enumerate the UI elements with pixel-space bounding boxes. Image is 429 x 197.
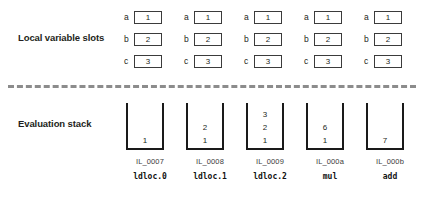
slot-name-label: a [244, 13, 254, 22]
local-variable-slot: c3 [364, 53, 402, 69]
slot-value-box: 1 [254, 11, 282, 24]
evaluation-stack-container: 1 [126, 103, 164, 150]
instruction-column: a1b2c361IL_000amul [300, 0, 360, 197]
instruction-column: a1b2c37IL_000badd [360, 0, 420, 197]
local-variable-slot: a1 [244, 9, 282, 25]
local-variable-slot: c3 [244, 53, 282, 69]
slot-value-box: 3 [374, 55, 402, 68]
instruction-opcode-label: ldloc.2 [240, 172, 300, 181]
local-variable-slot: c3 [124, 53, 162, 69]
local-variable-slot: b2 [364, 31, 402, 47]
slot-name-label: a [184, 13, 194, 22]
slot-name-label: c [244, 57, 254, 66]
local-variable-slot: b2 [124, 31, 162, 47]
evaluation-stack-container: 321 [246, 103, 284, 150]
instruction-opcode-label: mul [300, 172, 360, 181]
instruction-column: a1b2c31IL_0007ldloc.0 [120, 0, 180, 197]
instruction-offset-label: IL_0008 [180, 157, 240, 166]
local-variable-slot: c3 [184, 53, 222, 69]
slot-name-label: c [184, 57, 194, 66]
local-variable-slot-group: a1b2c3 [124, 9, 162, 75]
stack-item: 2 [263, 121, 267, 134]
slot-value-box: 3 [194, 55, 222, 68]
evaluation-stack-container: 21 [186, 103, 224, 150]
local-variable-slot: c3 [304, 53, 342, 69]
instruction-column: a1b2c321IL_0008ldloc.1 [180, 0, 240, 197]
instruction-opcode-label: ldloc.0 [120, 172, 180, 181]
instruction-opcode-label: ldloc.1 [180, 172, 240, 181]
slot-name-label: c [304, 57, 314, 66]
slot-name-label: a [124, 13, 134, 22]
slot-value-box: 1 [374, 11, 402, 24]
slot-name-label: b [364, 35, 374, 44]
local-variable-slots-label: Local variable slots [18, 32, 104, 43]
local-variable-slot: b2 [304, 31, 342, 47]
local-variable-slot-group: a1b2c3 [364, 9, 402, 75]
slot-name-label: c [364, 57, 374, 66]
slot-value-box: 2 [374, 33, 402, 46]
slot-value-box: 1 [194, 11, 222, 24]
instruction-column: a1b2c3321IL_0009ldloc.2 [240, 0, 300, 197]
instruction-offset-label: IL_0009 [240, 157, 300, 166]
slot-value-box: 2 [134, 33, 162, 46]
slot-name-label: b [184, 35, 194, 44]
slot-value-box: 1 [314, 11, 342, 24]
instruction-offset-label: IL_000a [300, 157, 360, 166]
instruction-offset-label: IL_000b [360, 157, 420, 166]
slot-value-box: 3 [134, 55, 162, 68]
evaluation-stack-container: 7 [366, 103, 404, 150]
instruction-opcode-label: add [360, 172, 420, 181]
slot-name-label: b [124, 35, 134, 44]
slot-value-box: 3 [254, 55, 282, 68]
slot-value-box: 2 [314, 33, 342, 46]
local-variable-slot: b2 [244, 31, 282, 47]
stack-item: 1 [323, 134, 327, 147]
local-variable-slot-group: a1b2c3 [304, 9, 342, 75]
slot-value-box: 1 [134, 11, 162, 24]
evaluation-stack-label: Evaluation stack [18, 118, 91, 129]
slot-name-label: a [364, 13, 374, 22]
slot-value-box: 2 [194, 33, 222, 46]
slot-name-label: c [124, 57, 134, 66]
stack-item: 1 [263, 134, 267, 147]
slot-value-box: 2 [254, 33, 282, 46]
evaluation-stack-container: 61 [306, 103, 344, 150]
instruction-offset-label: IL_0007 [120, 157, 180, 166]
slot-name-label: b [304, 35, 314, 44]
local-variable-slot: a1 [304, 9, 342, 25]
local-variable-slot: a1 [124, 9, 162, 25]
local-variable-slot: a1 [364, 9, 402, 25]
stack-item: 7 [383, 134, 387, 147]
stack-item: 3 [263, 108, 267, 121]
stack-item: 6 [323, 121, 327, 134]
local-variable-slot-group: a1b2c3 [184, 9, 222, 75]
local-variable-slot-group: a1b2c3 [244, 9, 282, 75]
stack-item: 1 [143, 134, 147, 147]
slot-name-label: a [304, 13, 314, 22]
local-variable-slot: a1 [184, 9, 222, 25]
stack-item: 2 [203, 121, 207, 134]
slot-name-label: b [244, 35, 254, 44]
slot-value-box: 3 [314, 55, 342, 68]
local-variable-slot: b2 [184, 31, 222, 47]
stack-item: 1 [203, 134, 207, 147]
